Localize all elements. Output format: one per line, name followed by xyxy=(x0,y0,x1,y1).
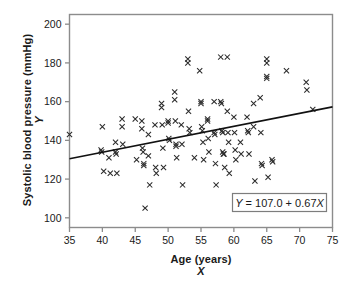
scatter-point-marker xyxy=(227,171,232,176)
scatter-point-marker xyxy=(225,55,230,60)
x-tick-label: 75 xyxy=(327,234,339,246)
plot-canvas: 100120140160180200354045505560657075Y = … xyxy=(0,0,359,286)
scatter-point-marker xyxy=(153,165,158,170)
y-tick-label: 200 xyxy=(44,18,62,30)
scatter-point-marker xyxy=(233,147,238,152)
scatter-point-marker xyxy=(133,116,138,121)
scatter-point-marker xyxy=(141,149,146,154)
scatter-point-marker xyxy=(304,80,309,85)
scatter-point-marker xyxy=(233,157,238,162)
scatter-point-marker xyxy=(284,68,289,73)
scatter-point-marker xyxy=(120,124,125,129)
y-tick-label: 140 xyxy=(44,134,62,146)
scatter-point-marker xyxy=(218,55,223,60)
scatter-point-marker xyxy=(159,105,164,110)
scatter-point-marker xyxy=(120,116,125,121)
scatter-point-marker xyxy=(238,140,243,145)
scatter-point-marker xyxy=(222,165,227,170)
scatter-point-marker xyxy=(186,109,191,114)
scatter-point-marker xyxy=(172,89,177,94)
scatter-point-marker xyxy=(232,130,237,135)
x-tick-label: 60 xyxy=(228,234,240,246)
scatter-point-marker xyxy=(197,68,202,73)
scatter-point-marker xyxy=(200,140,205,145)
x-axis-title: Age (years) X xyxy=(69,253,333,278)
regression-line xyxy=(70,107,333,159)
y-tick-label: 100 xyxy=(44,212,62,224)
scatter-point-marker xyxy=(179,142,184,147)
scatter-point-marker xyxy=(264,60,269,65)
scatter-point-marker xyxy=(173,118,178,123)
y-tick-label: 160 xyxy=(44,95,62,107)
scatter-point-marker xyxy=(147,182,152,187)
scatter-point-marker xyxy=(201,157,206,162)
scatter-point-marker xyxy=(244,115,249,120)
scatter-point-marker xyxy=(304,87,309,92)
scatter-plot-figure: 100120140160180200354045505560657075Y = … xyxy=(0,0,359,286)
scatter-point-marker xyxy=(226,140,231,145)
scatter-point-marker xyxy=(251,101,256,106)
scatter-point-marker xyxy=(120,142,125,147)
scatter-point-marker xyxy=(106,155,111,160)
scatter-point-marker xyxy=(101,169,106,174)
scatter-point-marker xyxy=(192,155,197,160)
scatter-point-marker xyxy=(258,95,263,100)
scatter-point-marker xyxy=(251,124,256,129)
scatter-point-marker xyxy=(146,132,151,137)
scatter-point-marker xyxy=(160,122,165,127)
scatter-point-marker xyxy=(154,171,159,176)
scatter-point-marker xyxy=(265,175,270,180)
x-tick-label: 55 xyxy=(195,234,207,246)
scatter-point-marker xyxy=(180,182,185,187)
scatter-point-marker xyxy=(231,115,236,120)
scatter-point-marker xyxy=(152,122,157,127)
x-tick-label: 40 xyxy=(97,234,109,246)
scatter-point-marker xyxy=(100,124,105,129)
equation-label: Y = 107.0 + 0.67X xyxy=(235,197,324,209)
scatter-point-marker xyxy=(139,126,144,131)
scatter-point-marker xyxy=(212,99,217,104)
x-tick-label: 65 xyxy=(261,234,273,246)
scatter-point-marker xyxy=(239,151,244,156)
scatter-point-marker xyxy=(185,60,190,65)
scatter-point-marker xyxy=(213,161,218,166)
y-tick-label: 120 xyxy=(44,173,62,185)
x-tick-label: 35 xyxy=(64,234,76,246)
scatter-point-marker xyxy=(221,151,226,156)
scatter-point-marker xyxy=(179,122,184,127)
scatter-point-marker xyxy=(246,151,251,156)
scatter-point-marker xyxy=(139,118,144,123)
x-tick-label: 70 xyxy=(294,234,306,246)
scatter-point-marker xyxy=(206,149,211,154)
x-tick-label: 45 xyxy=(129,234,141,246)
scatter-point-marker xyxy=(252,178,257,183)
scatter-point-marker xyxy=(225,109,230,114)
scatter-point-marker xyxy=(258,130,263,135)
scatter-point-marker xyxy=(146,153,151,158)
scatter-point-marker xyxy=(161,165,166,170)
scatter-points xyxy=(67,55,315,211)
x-tick-label: 50 xyxy=(162,234,174,246)
x-axis-variable-label: X xyxy=(69,265,333,277)
scatter-point-marker xyxy=(172,97,177,102)
scatter-point-marker xyxy=(160,146,165,151)
scatter-point-marker xyxy=(113,140,118,145)
scatter-point-marker xyxy=(214,182,219,187)
scatter-point-marker xyxy=(206,136,211,141)
scatter-point-marker xyxy=(108,171,113,176)
scatter-point-marker xyxy=(174,155,179,160)
scatter-point-marker xyxy=(114,171,119,176)
x-axis-title-text: Age (years) xyxy=(69,253,333,265)
scatter-point-marker xyxy=(143,206,148,211)
y-tick-label: 180 xyxy=(44,57,62,69)
scatter-point-marker xyxy=(225,130,230,135)
scatter-point-marker xyxy=(134,157,139,162)
y-axis-ticks: 100120140160180200 xyxy=(44,18,70,224)
x-axis-ticks: 354045505560657075 xyxy=(64,228,339,246)
